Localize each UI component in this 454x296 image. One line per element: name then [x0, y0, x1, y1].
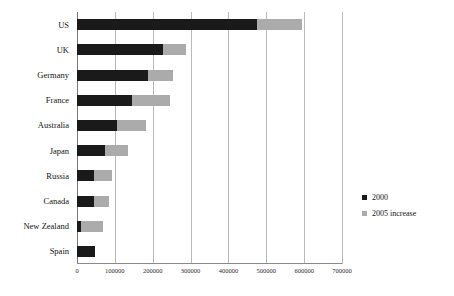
y-axis-category-labels: US UK Germany France Australia Japan Rus… — [0, 12, 73, 264]
bar-segment — [77, 196, 94, 207]
category-label-canada: Canada — [44, 196, 70, 206]
bar-row — [77, 145, 342, 156]
x-tick-label-200000: 200000 — [143, 266, 163, 275]
bar-row — [77, 120, 342, 131]
x-tick-label-0: 0 — [75, 266, 78, 275]
legend-label-2000: 2000 — [372, 193, 388, 202]
bar-segment — [77, 19, 257, 30]
bar-row — [77, 246, 342, 257]
x-axis-tick-labels: 0100000200000300000400000500000600000700… — [77, 266, 342, 280]
x-tick-label-500000: 500000 — [257, 266, 277, 275]
category-label-france: France — [46, 95, 69, 105]
category-label-us: US — [58, 20, 69, 30]
x-axis-line — [77, 263, 342, 264]
x-tick-label-600000: 600000 — [294, 266, 314, 275]
gray-square-swatch — [362, 211, 367, 216]
bar-segment — [77, 145, 105, 156]
bar-row — [77, 19, 342, 30]
x-tick-label-100000: 100000 — [105, 266, 125, 275]
bar-row — [77, 221, 342, 232]
bar-row — [77, 95, 342, 106]
x-tick-label-400000: 400000 — [219, 266, 239, 275]
bar-segment — [77, 120, 117, 131]
category-label-spain: Spain — [50, 246, 69, 256]
bar-segment — [77, 44, 163, 55]
bar-segment — [77, 95, 132, 106]
gridline-700000 — [342, 12, 343, 264]
bar-segment — [94, 196, 108, 207]
bar-segment — [117, 120, 146, 131]
legend-label-2005-increase: 2005 increase — [372, 209, 416, 218]
category-label-australia: Australia — [38, 120, 69, 130]
plot-area — [77, 12, 342, 264]
bar-segment — [77, 170, 94, 181]
chart-legend: 2000 2005 increase — [362, 193, 452, 225]
category-label-russia: Russia — [46, 171, 69, 181]
bar-segment — [105, 145, 128, 156]
bar-row — [77, 196, 342, 207]
bar-row — [77, 170, 342, 181]
category-label-japan: Japan — [50, 146, 69, 156]
x-tick-label-700000: 700000 — [332, 266, 352, 275]
bar-segment — [94, 170, 112, 181]
legend-item-2005-increase: 2005 increase — [362, 209, 452, 218]
bar-segment — [148, 70, 173, 81]
black-square-swatch — [362, 195, 367, 200]
bar-segment — [77, 70, 148, 81]
legend-item-2000: 2000 — [362, 193, 452, 202]
bar-rows — [77, 12, 342, 264]
bar-segment — [132, 95, 170, 106]
bar-segment — [77, 246, 95, 257]
x-tick-label-300000: 300000 — [181, 266, 201, 275]
bar-segment — [163, 44, 186, 55]
bar-segment — [257, 19, 302, 30]
category-label-germany: Germany — [37, 70, 69, 80]
category-label-uk: UK — [57, 45, 69, 55]
category-label-new-zealand: New Zealand — [23, 221, 69, 231]
stacked-bar-chart: US UK Germany France Australia Japan Rus… — [0, 0, 454, 296]
bar-row — [77, 44, 342, 55]
bar-segment — [81, 221, 103, 232]
bar-row — [77, 70, 342, 81]
